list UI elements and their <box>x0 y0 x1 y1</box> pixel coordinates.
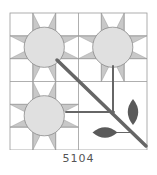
quilt-block-diagram <box>0 0 157 150</box>
flower-center-circle <box>93 27 133 67</box>
pattern-number-label: 5104 <box>0 152 157 165</box>
flower-center-circle <box>24 96 64 136</box>
